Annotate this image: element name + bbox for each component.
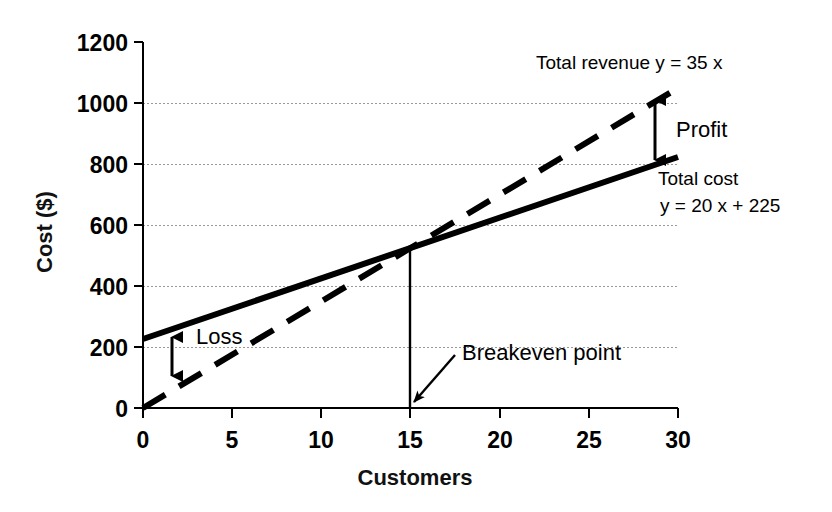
x-tick-label-0: 0 [137, 427, 150, 453]
x-tick-label-10: 10 [308, 427, 334, 453]
y-tick-label-1000: 1000 [77, 91, 128, 117]
y-tick-label-1200: 1200 [77, 30, 128, 56]
total-cost-label-line1: Total cost [658, 168, 739, 189]
profit-label: Profit [676, 117, 727, 142]
y-tick-label-200: 200 [90, 335, 128, 361]
x-tick-label-5: 5 [226, 427, 239, 453]
chart-canvas: 1200 1000 800 600 400 200 0 0 5 10 15 20… [0, 0, 832, 512]
y-tick-label-400: 400 [90, 274, 128, 300]
y-tick-label-800: 800 [90, 152, 128, 178]
y-axis-title: Cost ($) [32, 191, 57, 273]
total-revenue-label: Total revenue y = 35 x [536, 52, 723, 73]
x-tick-label-25: 25 [576, 427, 602, 453]
x-tick-label-20: 20 [487, 427, 513, 453]
x-tick-label-30: 30 [665, 427, 691, 453]
y-tick-label-0: 0 [115, 396, 128, 422]
breakeven-point-label: Breakeven point [462, 340, 621, 365]
x-tick-label-15: 15 [397, 427, 423, 453]
breakeven-chart: 1200 1000 800 600 400 200 0 0 5 10 15 20… [0, 0, 832, 512]
x-axis-title: Customers [358, 465, 473, 490]
y-tick-label-600: 600 [90, 213, 128, 239]
total-cost-label-line2: y = 20 x + 225 [660, 195, 780, 216]
loss-label: Loss [196, 324, 242, 349]
